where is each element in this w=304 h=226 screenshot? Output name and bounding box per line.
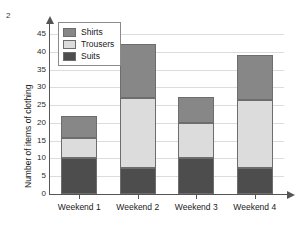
bar-segment-suits (237, 168, 273, 194)
y-axis-tick-label: 35 (2, 66, 46, 74)
bar-group (237, 27, 273, 194)
y-axis-tick-labels: 051015202530354045 (0, 0, 46, 226)
bar-segment-trousers (237, 100, 273, 168)
y-axis-tick-label: 0 (2, 190, 46, 198)
legend-item-shirts: Shirts (63, 26, 114, 38)
bar-group (120, 27, 156, 194)
y-axis-tick-label: 15 (2, 137, 46, 145)
x-axis-tick (138, 195, 139, 199)
y-axis-tick-label: 45 (2, 30, 46, 38)
bar-segment-trousers (120, 98, 156, 168)
legend-item-trousers: Trousers (63, 38, 114, 50)
y-axis-tick-label: 25 (2, 101, 46, 109)
x-axis-category-label: Weekend 4 (220, 202, 290, 212)
chart-figure: 2 Number of items of clothing 0510152025… (0, 0, 304, 226)
bar-segment-suits (120, 168, 156, 194)
x-axis-tick (79, 195, 80, 199)
y-axis-arrow-icon (46, 16, 54, 24)
bar-segment-trousers (61, 138, 97, 158)
bar-segment-shirts (237, 55, 273, 100)
x-axis-tick (255, 195, 256, 199)
legend-swatch-shirts (63, 28, 76, 37)
bar-segment-suits (61, 158, 97, 194)
legend-swatch-suits (63, 52, 76, 61)
x-axis-arrow-icon (287, 191, 295, 199)
y-axis-tick-label: 40 (2, 48, 46, 56)
y-axis-tick-label: 20 (2, 119, 46, 127)
legend-swatch-trousers (63, 40, 76, 49)
bar-segment-shirts (61, 116, 97, 138)
legend-label: Suits (81, 52, 100, 61)
y-axis-tick-label: 5 (2, 172, 46, 180)
bar-group (178, 27, 214, 194)
bar-segment-suits (178, 158, 214, 194)
x-axis-line (49, 194, 288, 195)
legend-label: Trousers (81, 40, 114, 49)
y-axis-tick-label: 30 (2, 83, 46, 91)
chart-legend: ShirtsTrousersSuits (58, 22, 121, 66)
y-axis-tick-label: 10 (2, 154, 46, 162)
bar-segment-shirts (178, 97, 214, 123)
legend-item-suits: Suits (63, 50, 114, 62)
bar-segment-trousers (178, 123, 214, 159)
x-axis-tick (196, 195, 197, 199)
bar-segment-shirts (120, 44, 156, 98)
legend-label: Shirts (81, 28, 103, 37)
